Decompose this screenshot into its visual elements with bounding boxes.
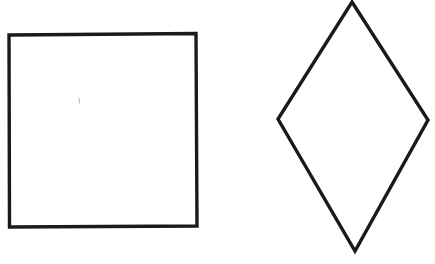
shapes-figure	[0, 0, 435, 264]
faint-pen-mark	[79, 98, 80, 103]
drawing-canvas: Two hand-drawn black outline geometric s…	[0, 0, 435, 264]
